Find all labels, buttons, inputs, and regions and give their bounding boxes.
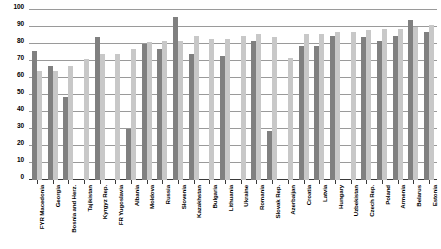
bar-group [296, 10, 312, 180]
y-axis-labels: 0102030405060708090100 [0, 10, 27, 180]
bar-group [406, 10, 422, 180]
bar [351, 32, 356, 180]
bar [209, 39, 214, 180]
x-tick [123, 180, 139, 184]
y-tick-label: 80 [17, 37, 24, 44]
bar [68, 66, 73, 180]
bar-chart: 0102030405060708090100 FYR MacedoniaGeor… [0, 0, 441, 249]
bar [131, 49, 136, 180]
x-label-cell: Ukraine [233, 185, 249, 249]
x-label-cell: Bosnia and Herz. [60, 185, 76, 249]
bar-group [139, 10, 155, 180]
bar-group [202, 10, 218, 180]
x-label-cell: Moldova [139, 185, 155, 249]
x-label-cell: Bulgaria [202, 185, 218, 249]
x-label-cell: Kyrgyz Rep. [92, 185, 108, 249]
bar-group [280, 10, 296, 180]
bar-group [170, 10, 186, 180]
x-tick [327, 180, 343, 184]
bar-group [358, 10, 374, 180]
bar [272, 37, 277, 180]
bar [335, 32, 340, 180]
x-label-cell: Croatia [296, 185, 312, 249]
x-tick [296, 180, 312, 184]
bar [366, 30, 371, 180]
bar-group [45, 10, 61, 180]
x-label-cell: Slovenia [170, 185, 186, 249]
x-label-cell: Azerbaijan [280, 185, 296, 249]
bar [319, 34, 324, 180]
x-tick [202, 180, 218, 184]
x-label-cell: Lithuania [217, 185, 233, 249]
bar [429, 25, 434, 180]
bar-group [249, 10, 265, 180]
x-tick [374, 180, 390, 184]
x-label-cell: Armenia [390, 185, 406, 249]
x-tick [280, 180, 296, 184]
x-label-cell: Albania [123, 185, 139, 249]
bars-layer [29, 10, 437, 180]
bar [115, 54, 120, 180]
bar-group [107, 10, 123, 180]
plot-area [29, 10, 437, 180]
y-tick-label: 10 [17, 156, 24, 163]
x-tick [29, 180, 45, 184]
bar [241, 36, 246, 181]
x-tick [92, 180, 108, 184]
x-label-cell: Kazakhstan [186, 185, 202, 249]
x-label-cell: Poland [374, 185, 390, 249]
bar-group [390, 10, 406, 180]
bar [194, 36, 199, 181]
x-axis-ticks [29, 180, 437, 184]
bar-group [155, 10, 171, 180]
bar [288, 58, 293, 180]
bar-group [374, 10, 390, 180]
x-label-cell: Latvia [311, 185, 327, 249]
bar-group [76, 10, 92, 180]
x-label-cell: Georgia [45, 185, 61, 249]
x-tick [249, 180, 265, 184]
x-tick [311, 180, 327, 184]
bar-group [264, 10, 280, 180]
bar [84, 59, 89, 180]
bar [256, 34, 261, 180]
x-tick [358, 180, 374, 184]
x-tick [45, 180, 61, 184]
x-label-cell: Uzbekistan [343, 185, 359, 249]
y-tick-label: 50 [17, 88, 24, 95]
x-axis-labels: FYR MacedoniaGeorgiaBosnia and Herz.Taji… [29, 185, 437, 249]
x-tick [76, 180, 92, 184]
x-tick [170, 180, 186, 184]
bar [147, 42, 152, 180]
x-tick-label: Estonia [432, 185, 438, 206]
x-tick [264, 180, 280, 184]
bar [162, 41, 167, 180]
y-tick-label: 40 [17, 105, 24, 112]
x-tick [406, 180, 422, 184]
x-tick [233, 180, 249, 184]
x-label-cell: Czech Rep. [358, 185, 374, 249]
x-tick [107, 180, 123, 184]
y-tick-label: 90 [17, 20, 24, 27]
x-label-cell: FYR Macedonia [29, 185, 45, 249]
x-label-cell: Romania [249, 185, 265, 249]
bar [304, 34, 309, 180]
bar-group [327, 10, 343, 180]
bar [398, 29, 403, 180]
x-label-cell: Estonia [421, 185, 437, 249]
bar-group [60, 10, 76, 180]
bar-group [217, 10, 233, 180]
y-tick-label: 20 [17, 139, 24, 146]
bar [100, 54, 105, 180]
x-tick [217, 180, 233, 184]
x-tick [155, 180, 171, 184]
bar-group [92, 10, 108, 180]
x-label-cell: FR Yugoslavia [107, 185, 123, 249]
bar-group [186, 10, 202, 180]
x-tick [343, 180, 359, 184]
bar-group [123, 10, 139, 180]
bar [37, 71, 42, 180]
y-tick-label: 60 [17, 71, 24, 78]
x-label-cell: Russia [155, 185, 171, 249]
bar-group [311, 10, 327, 180]
